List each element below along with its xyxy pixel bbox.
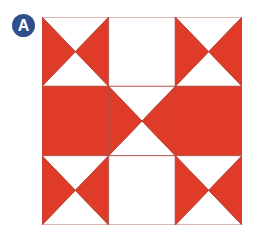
quilt-block-diagram xyxy=(42,17,242,225)
quilt-grid xyxy=(42,17,242,225)
figure-label-badge: A xyxy=(12,14,35,37)
solid-red-square xyxy=(42,86,109,155)
solid-red-square xyxy=(175,86,242,155)
plain-white-square xyxy=(109,156,176,225)
plain-white-square xyxy=(109,17,176,86)
